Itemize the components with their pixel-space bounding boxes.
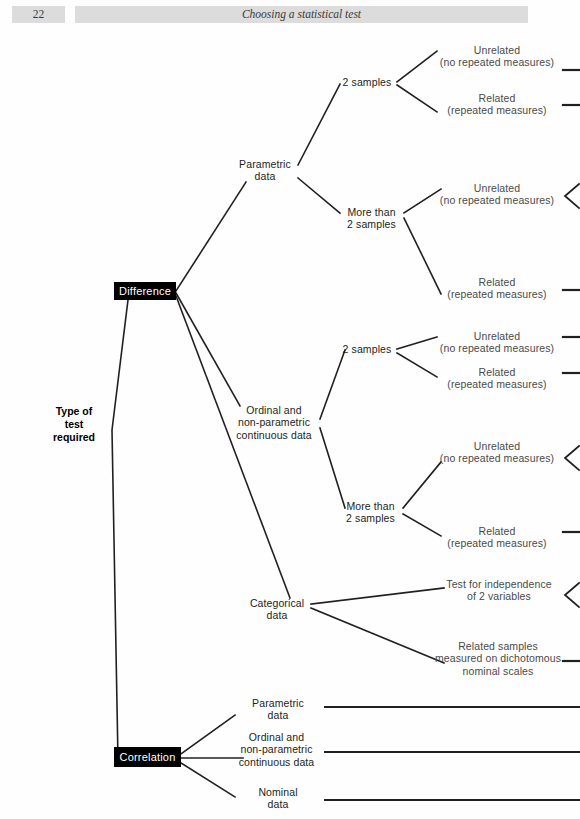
- node-correlation-parametric-data[interactable]: Parametric data: [234, 697, 322, 722]
- node-ordinal-2-samples[interactable]: 2 samples: [337, 343, 397, 355]
- node-ordinal-more-than-2-samples[interactable]: More than 2 samples: [338, 500, 403, 525]
- leaf-categorical-test-for-independence[interactable]: Test for independence of 2 variables: [440, 578, 558, 603]
- leaf-categorical-related-samples-dichotomous[interactable]: Related samples measured on dichotomous …: [434, 640, 562, 677]
- leaf-ordinal-more2-unrelated[interactable]: Unrelated (no repeated measures): [438, 440, 556, 465]
- node-correlation[interactable]: Correlation: [114, 747, 181, 767]
- running-head-title: Choosing a statistical test: [75, 6, 528, 23]
- node-correlation-ordinal-nonparametric-data[interactable]: Ordinal and non-parametric continuous da…: [231, 731, 322, 768]
- node-categorical-data[interactable]: Categorical data: [243, 597, 311, 622]
- leaf-parametric-2samples-unrelated[interactable]: Unrelated (no repeated measures): [438, 44, 556, 69]
- node-correlation-nominal-data[interactable]: Nominal data: [234, 786, 322, 811]
- leaf-ordinal-more2-related[interactable]: Related (repeated measures): [438, 525, 556, 550]
- leaf-ordinal-2samples-unrelated[interactable]: Unrelated (no repeated measures): [438, 330, 556, 355]
- page-number: 22: [12, 6, 65, 23]
- node-difference[interactable]: Difference: [114, 282, 176, 300]
- leaf-parametric-more2-related[interactable]: Related (repeated measures): [438, 276, 556, 301]
- root-label-type-of-test-required: Type of test required: [32, 405, 116, 444]
- node-parametric-data[interactable]: Parametric data: [232, 158, 298, 183]
- leaf-parametric-2samples-related[interactable]: Related (repeated measures): [438, 92, 556, 117]
- leaf-ordinal-2samples-related[interactable]: Related (repeated measures): [438, 366, 556, 391]
- node-parametric-more-than-2-samples[interactable]: More than 2 samples: [339, 206, 404, 231]
- node-ordinal-nonparametric-data[interactable]: Ordinal and non-parametric continuous da…: [228, 404, 320, 441]
- page-canvas: 22 Choosing a statistical test: [0, 0, 580, 819]
- leaf-parametric-more2-unrelated[interactable]: Unrelated (no repeated measures): [438, 182, 556, 207]
- node-parametric-2-samples[interactable]: 2 samples: [337, 76, 397, 88]
